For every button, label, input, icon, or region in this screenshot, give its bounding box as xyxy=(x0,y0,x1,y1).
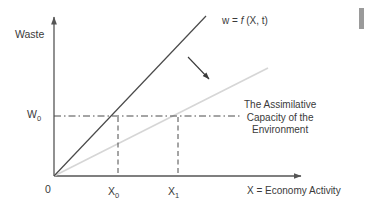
assimilative-capacity-line xyxy=(54,68,268,176)
assimilative-capacity-note: The AssimilativeCapacity of theEnvironme… xyxy=(244,99,316,137)
assimilative-note-line-3: Environment xyxy=(252,124,308,135)
origin-label: 0 xyxy=(45,183,51,196)
w0-label-prefix: W xyxy=(27,108,37,120)
shift-arrow-icon xyxy=(188,57,209,79)
waste-function-line xyxy=(54,16,206,176)
x1-label-prefix: X xyxy=(168,185,175,197)
waste-function-label: w = f (X, t) xyxy=(222,15,268,28)
w0-axis-label: W0 xyxy=(27,108,41,123)
x1-label-subscript: 1 xyxy=(175,191,179,200)
y-axis-title: Waste xyxy=(15,28,44,41)
assimilative-note-line-2: Capacity of the xyxy=(247,112,314,123)
curve-label-prefix: w = xyxy=(222,15,241,26)
figure-canvas: Waste 0 W0 X0 X1 w = f (X, t) The Assimi… xyxy=(0,0,370,214)
curve-label-args: (X, t) xyxy=(243,15,267,26)
x0-label-prefix: X xyxy=(108,185,115,197)
x1-axis-label: X1 xyxy=(168,185,179,200)
w0-label-subscript: 0 xyxy=(37,114,41,123)
x0-label-subscript: 0 xyxy=(115,191,119,200)
x-axis-title: X = Economy Activity xyxy=(247,185,341,198)
x0-axis-label: X0 xyxy=(108,185,119,200)
assimilative-note-line-1: The Assimilative xyxy=(244,99,316,110)
scrollbar-thumb[interactable] xyxy=(359,8,364,29)
